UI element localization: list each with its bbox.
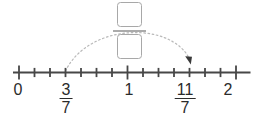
tick-label-11-7: 11 7 (175, 82, 196, 115)
fraction-denominator: 7 (181, 100, 190, 115)
fraction-denominator: 7 (62, 100, 71, 115)
tick-label-0: 0 (14, 82, 23, 97)
answer-numerator-box[interactable] (117, 2, 142, 27)
fraction-numerator: 3 (62, 82, 71, 97)
number-line-figure: 0 3 7 1 11 7 2 (0, 0, 262, 131)
arrowhead-icon (185, 56, 192, 64)
tick-label-1: 1 (125, 82, 134, 97)
tick-label-3-7: 3 7 (60, 82, 73, 115)
fraction-numerator: 11 (177, 82, 194, 97)
tick-label-2: 2 (224, 82, 233, 97)
answer-denominator-box[interactable] (117, 34, 142, 59)
answer-fraction-bar (113, 30, 146, 32)
